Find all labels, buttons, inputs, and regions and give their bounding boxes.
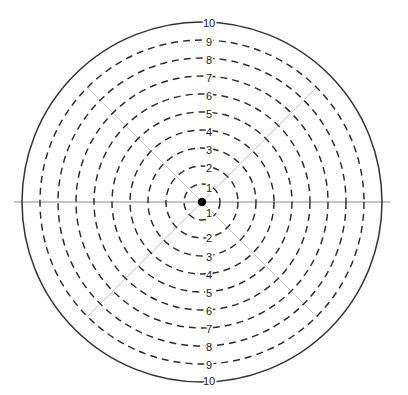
ring-label-up-5: 5 bbox=[206, 108, 212, 120]
ring-label-down-9: 9 bbox=[206, 359, 212, 371]
ring-label-down-10: 10 bbox=[203, 375, 215, 387]
ring-label-down-2: 2 bbox=[206, 232, 212, 244]
ring-label-down-7: 7 bbox=[206, 323, 212, 335]
ring-label-down-8: 8 bbox=[206, 341, 212, 353]
ring-label-up-6: 6 bbox=[206, 90, 212, 102]
polar-target-chart: 10 10 9 9 8 8 7 7 6 6 5 5 4 4 3 3 2 2 1 … bbox=[0, 0, 408, 395]
ring-label-down-4: 4 bbox=[206, 269, 212, 281]
ring-label-up-7: 7 bbox=[206, 72, 212, 84]
ring-label-down-1: 1 bbox=[206, 207, 212, 219]
center-point-marker bbox=[198, 198, 206, 206]
ring-label-up-8: 8 bbox=[206, 54, 212, 66]
ring-label-up-10: 10 bbox=[203, 17, 215, 29]
ring-label-up-3: 3 bbox=[206, 144, 212, 156]
ring-label-up-2: 2 bbox=[206, 162, 212, 174]
chart-background bbox=[0, 0, 408, 395]
ring-label-up-4: 4 bbox=[206, 126, 212, 138]
ring-label-down-5: 5 bbox=[206, 287, 212, 299]
polar-grid-svg: 10 10 9 9 8 8 7 7 6 6 5 5 4 4 3 3 2 2 1 … bbox=[0, 0, 408, 395]
ring-label-down-6: 6 bbox=[206, 305, 212, 317]
ring-label-up-9: 9 bbox=[206, 36, 212, 48]
ring-label-up-1: 1 bbox=[206, 182, 212, 194]
ring-label-down-3: 3 bbox=[206, 251, 212, 263]
